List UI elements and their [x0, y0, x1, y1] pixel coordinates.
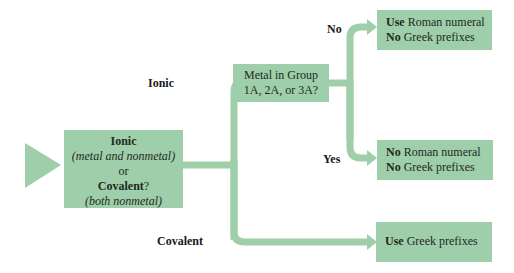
outcome-no-box: Use Roman numeral No Greek prefixes [377, 10, 492, 50]
question-line1: Metal in Group [233, 68, 329, 83]
question-line2: 1A, 2A, or 3A? [233, 83, 329, 98]
label-covalent: Covalent [157, 234, 203, 249]
start-ionic-desc: (metal and nonmetal) [72, 149, 175, 163]
outcome-no-l2: Greek prefixes [401, 30, 475, 44]
question-box-content: Metal in Group 1A, 2A, or 3A? [233, 64, 329, 102]
start-ionic: Ionic [110, 134, 136, 148]
outcome-no-l1-bold: Use [386, 15, 405, 29]
start-or: or [64, 164, 183, 179]
start-covalent-desc: (both nonmetal) [85, 194, 162, 208]
arrow-to-no-icon [367, 19, 377, 35]
label-no: No [327, 22, 342, 37]
outcome-yes-l2: Greek prefixes [401, 160, 475, 174]
outcome-yes-l1: Roman numeral [401, 145, 481, 159]
outcome-yes-box: No Roman numeral No Greek prefixes [377, 140, 493, 180]
arrow-to-yes-icon [367, 150, 377, 166]
outcome-covalent-bold: Use [385, 234, 404, 248]
start-question-mark: ? [144, 179, 149, 193]
outcome-no-l1: Roman numeral [405, 15, 485, 29]
label-yes: Yes [323, 152, 340, 167]
start-arrow-icon [25, 143, 61, 188]
outcome-covalent-box: Use Greek prefixes [376, 222, 492, 262]
outcome-yes-l1-bold: No [386, 145, 401, 159]
outcome-covalent-text: Greek prefixes [404, 234, 478, 248]
label-ionic: Ionic [148, 76, 174, 91]
start-decision-box: Ionic (metal and nonmetal) or Covalent? … [64, 130, 183, 208]
start-covalent: Covalent [98, 179, 144, 193]
outcome-yes-l2-bold: No [386, 160, 401, 174]
outcome-no-l2-bold: No [386, 30, 401, 44]
